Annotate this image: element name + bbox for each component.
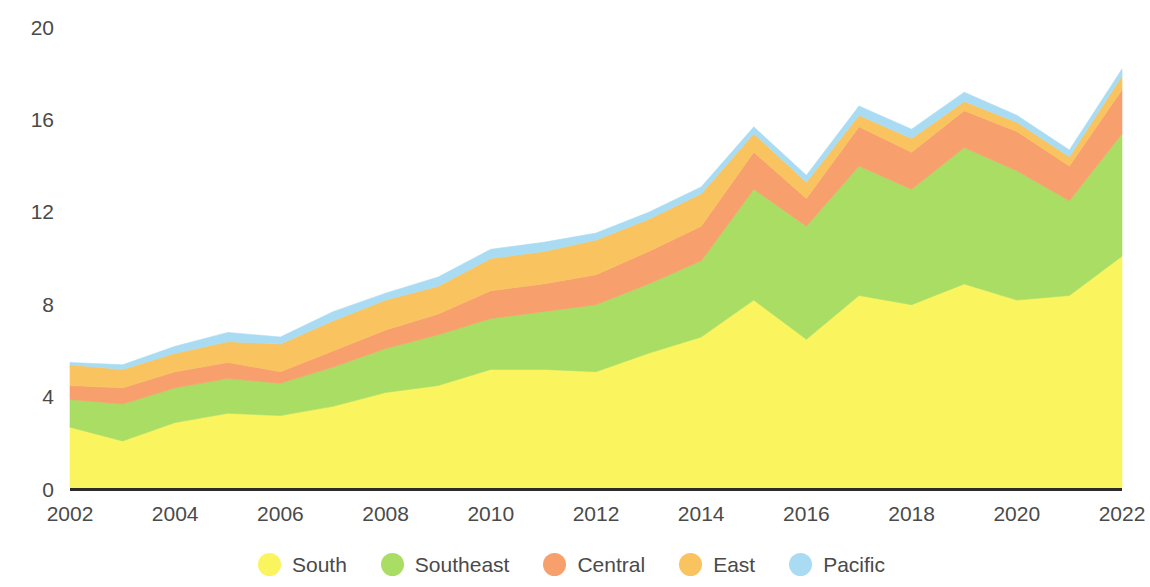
y-tick-label-12: 12 [10, 201, 54, 222]
x-tick-label-2004: 2004 [135, 503, 215, 524]
legend-item-label: Pacific [823, 554, 885, 575]
legend-item-southeast[interactable]: Southeast [381, 553, 510, 576]
legend-item-label: East [713, 554, 755, 575]
circle-swatch [381, 553, 404, 576]
y-tick-label-0: 0 [10, 479, 54, 500]
x-tick-label-2018: 2018 [872, 503, 952, 524]
x-tick-label-2010: 2010 [451, 503, 531, 524]
legend-item-south[interactable]: South [258, 553, 347, 576]
x-tick-label-2008: 2008 [346, 503, 426, 524]
legend-item-east[interactable]: East [679, 553, 755, 576]
area-series-group [70, 69, 1122, 489]
x-tick-label-2016: 2016 [766, 503, 846, 524]
legend-item-label: Southeast [415, 554, 510, 575]
legend-item-central[interactable]: Central [543, 553, 645, 576]
y-tick-label-16: 16 [10, 109, 54, 130]
y-tick-label-8: 8 [10, 294, 54, 315]
circle-swatch [679, 553, 702, 576]
circle-swatch [789, 553, 812, 576]
y-tick-label-20: 20 [10, 17, 54, 38]
y-tick-label-4: 4 [10, 386, 54, 407]
x-tick-label-2022: 2022 [1082, 503, 1150, 524]
circle-swatch [258, 553, 281, 576]
circle-swatch [543, 553, 566, 576]
x-tick-label-2006: 2006 [240, 503, 320, 524]
x-tick-label-2014: 2014 [661, 503, 741, 524]
legend-item-label: South [292, 554, 347, 575]
x-tick-label-2002: 2002 [30, 503, 110, 524]
x-tick-label-2012: 2012 [556, 503, 636, 524]
legend-item-label: Central [577, 554, 645, 575]
legend-item-pacific[interactable]: Pacific [789, 553, 885, 576]
x-tick-label-2020: 2020 [977, 503, 1057, 524]
chart-legend: SouthSoutheastCentralEastPacific [0, 553, 1143, 576]
